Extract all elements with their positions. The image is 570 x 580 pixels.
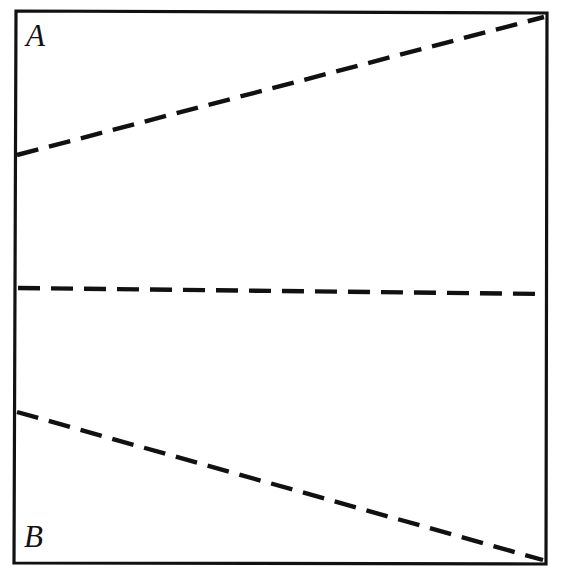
figure-canvas xyxy=(0,0,570,580)
figure-container: A B xyxy=(0,0,570,580)
corner-label-b: B xyxy=(24,521,43,552)
corner-label-a: A xyxy=(26,20,45,51)
